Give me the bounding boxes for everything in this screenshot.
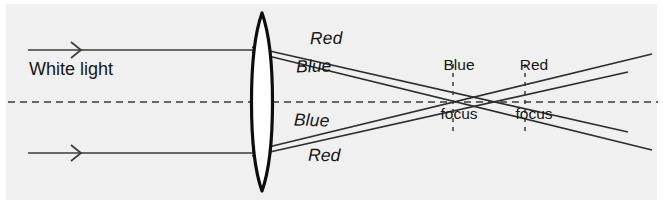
label-blue-focus: Blue focus [428, 24, 490, 155]
label-red-focus-line2: focus [503, 106, 565, 122]
label-white-light: White light [29, 60, 113, 78]
converging-lens [252, 13, 273, 191]
label-red-lower: Red [308, 147, 341, 165]
chromatic-aberration-figure: White light Red Blue Blue Red Blue focus… [0, 0, 663, 204]
label-red-focus: Red focus [503, 24, 565, 155]
label-blue-lower: Blue [294, 111, 330, 130]
label-red-upper: Red [310, 30, 343, 48]
label-red-focus-line1: Red [503, 57, 565, 73]
label-blue-focus-line1: Blue [428, 57, 490, 73]
label-blue-upper: Blue [296, 57, 332, 76]
label-blue-focus-line2: focus [428, 106, 490, 122]
